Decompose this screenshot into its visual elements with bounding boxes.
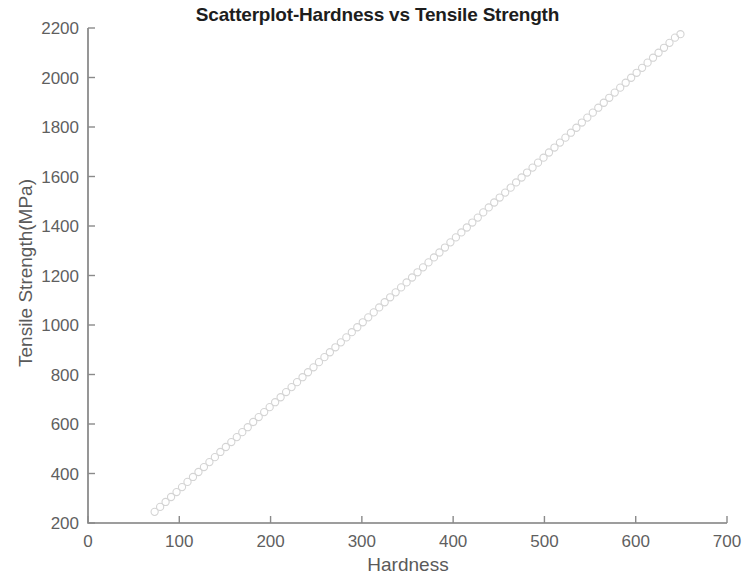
x-tick-labels: 0100200300400500600700	[83, 532, 741, 551]
y-tick-label: 1200	[41, 267, 79, 286]
y-tick-label: 800	[51, 366, 79, 385]
tick-marks	[88, 28, 727, 523]
y-tick-label: 2200	[41, 19, 79, 38]
y-tick-label: 600	[51, 415, 79, 434]
x-tick-label: 0	[83, 532, 92, 551]
axes	[88, 28, 727, 523]
x-tick-label: 100	[165, 532, 193, 551]
plot-canvas: 2004006008001000120014001600180020002200…	[0, 0, 755, 586]
y-tick-label: 200	[51, 514, 79, 533]
x-tick-label: 300	[348, 532, 376, 551]
y-tick-labels: 2004006008001000120014001600180020002200	[41, 19, 79, 533]
y-tick-label: 2000	[41, 69, 79, 88]
y-tick-label: 1000	[41, 316, 79, 335]
x-tick-label: 200	[256, 532, 284, 551]
y-tick-label: 1400	[41, 217, 79, 236]
x-tick-label: 600	[622, 532, 650, 551]
x-tick-label: 700	[713, 532, 741, 551]
axis-spines	[88, 28, 727, 523]
y-tick-label: 1800	[41, 118, 79, 137]
y-tick-label: 400	[51, 465, 79, 484]
x-tick-label: 500	[530, 532, 558, 551]
data-points	[151, 31, 684, 516]
y-tick-label: 1600	[41, 168, 79, 187]
data-point	[677, 31, 684, 38]
scatterplot-figure: Scatterplot-Hardness vs Tensile Strength…	[0, 0, 755, 586]
x-tick-label: 400	[439, 532, 467, 551]
